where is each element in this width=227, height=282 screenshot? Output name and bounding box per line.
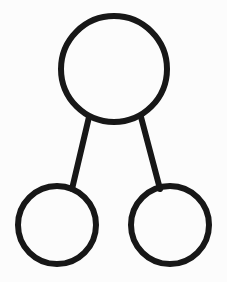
diagram-background: [0, 0, 227, 282]
diagram-canvas: [0, 0, 227, 282]
